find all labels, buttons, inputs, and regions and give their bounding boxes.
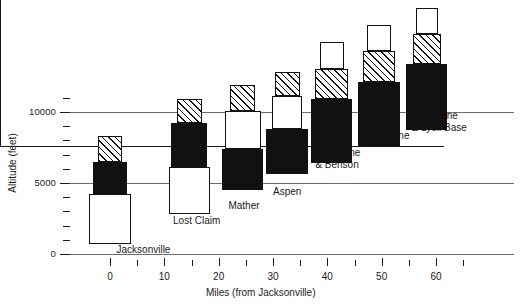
y-axis-title: Altitude (feet) <box>8 123 18 203</box>
altitude-chart: 0500010000 0102030405060 JacksonvilleLos… <box>0 0 522 304</box>
gridline-5000 <box>70 183 514 184</box>
bar-segment <box>275 72 300 96</box>
bar-segment <box>89 194 130 244</box>
x-tick-minor-65 <box>463 260 464 266</box>
bar-segment <box>230 85 255 111</box>
y-tick-minor-7000 <box>63 155 70 156</box>
y-tick-label-10000: 10000 <box>0 107 56 117</box>
y-tick-minor-1000 <box>63 240 70 241</box>
bar-segment <box>272 96 301 129</box>
y-tick-minor-3000 <box>63 211 70 212</box>
x-tick-40 <box>327 258 328 266</box>
x-tick-label-50: 50 <box>362 272 402 282</box>
bar-segment <box>315 69 348 99</box>
x-tick-label-10: 10 <box>144 272 184 282</box>
y-tick-0 <box>60 254 70 255</box>
x-tick-label-40: 40 <box>307 272 347 282</box>
x-tick-0 <box>110 258 111 266</box>
bar-segment <box>363 51 396 82</box>
y-tick-minor-11000 <box>63 98 70 99</box>
bar-segment <box>416 8 438 34</box>
station-label: Jacksonville <box>117 244 171 256</box>
y-tick-minor-6000 <box>63 169 70 170</box>
x-tick-minor-55 <box>409 260 410 266</box>
x-tick-minor-25 <box>246 260 247 266</box>
x-tick-minor-5 <box>137 260 138 266</box>
station-label: Mather <box>228 200 259 212</box>
station-label: Lost Claim <box>173 215 220 227</box>
bar-segment <box>311 99 352 163</box>
x-tick-label-0: 0 <box>90 272 130 282</box>
x-axis-line <box>0 146 444 147</box>
y-tick-10000 <box>60 112 70 113</box>
bar-segment <box>171 123 207 167</box>
y-tick-label-0: 0 <box>0 249 56 259</box>
bar-segment <box>93 162 128 195</box>
x-tick-label-20: 20 <box>199 272 239 282</box>
y-tick-minor-4000 <box>63 197 70 198</box>
bar-segment <box>406 64 447 131</box>
y-tick-minor-2000 <box>63 226 70 227</box>
y-tick-minor-8000 <box>63 140 70 141</box>
x-tick-30 <box>273 258 274 266</box>
x-tick-10 <box>164 258 165 266</box>
x-tick-60 <box>436 258 437 266</box>
x-tick-20 <box>219 258 220 266</box>
x-axis-title: Miles (from Jacksonville) <box>206 288 315 298</box>
bar-segment <box>320 42 344 69</box>
bar-segment <box>169 167 210 214</box>
x-tick-minor-15 <box>192 260 193 266</box>
x-tick-label-30: 30 <box>253 272 293 282</box>
x-tick-label-60: 60 <box>416 272 456 282</box>
bar-segment <box>358 82 399 146</box>
x-tick-minor-45 <box>355 260 356 266</box>
bar-segment <box>222 149 263 190</box>
y-tick-minor-9000 <box>63 126 70 127</box>
bar-segment <box>367 25 391 51</box>
y-axis-line <box>0 0 1 146</box>
bar-segment <box>98 136 123 162</box>
x-tick-minor-35 <box>300 260 301 266</box>
station-label: Aspen <box>273 186 301 198</box>
bar-segment <box>266 129 307 174</box>
bar-segment <box>413 34 441 64</box>
x-tick-50 <box>382 258 383 266</box>
y-tick-5000 <box>60 183 70 184</box>
bar-segment <box>225 111 261 149</box>
bar-segment <box>177 99 202 123</box>
